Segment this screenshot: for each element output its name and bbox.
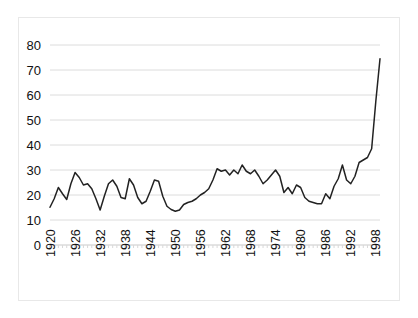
- x-axis-label-group-1920: 1920: [44, 229, 58, 257]
- x-axis-label-1998: 1998: [369, 229, 383, 257]
- x-axis-label-group-1944: 1944: [144, 229, 158, 257]
- x-axis-label-group-1998: 1998: [369, 229, 383, 257]
- x-axis-label-1992: 1992: [344, 229, 358, 257]
- x-axis-label-group-1992: 1992: [344, 229, 358, 257]
- x-axis-label-1968: 1968: [244, 229, 258, 257]
- data-series-value: [50, 59, 380, 212]
- x-axis-label-group-1980: 1980: [294, 229, 308, 257]
- x-axis-label-group-1926: 1926: [69, 229, 83, 257]
- x-axis-label-1950: 1950: [169, 229, 183, 257]
- y-axis-label-10: 10: [27, 213, 41, 228]
- y-axis-label-70: 70: [27, 63, 41, 78]
- x-axis-label-group-1938: 1938: [119, 229, 133, 257]
- x-axis-label-1974: 1974: [269, 229, 283, 257]
- x-axis-label-1920: 1920: [44, 229, 58, 257]
- x-axis-label-1938: 1938: [119, 229, 133, 257]
- chart-figure: 0102030405060708019201926193219381944195…: [0, 0, 418, 318]
- line-chart: 0102030405060708019201926193219381944195…: [0, 0, 418, 318]
- x-axis-label-group-1956: 1956: [194, 229, 208, 257]
- x-axis-label-1962: 1962: [219, 229, 233, 257]
- x-axis-label-group-1932: 1932: [94, 229, 108, 257]
- y-axis-label-30: 30: [27, 163, 41, 178]
- x-axis-label-group-1950: 1950: [169, 229, 183, 257]
- y-axis-label-0: 0: [34, 238, 41, 253]
- x-axis-label-1926: 1926: [69, 229, 83, 257]
- y-axis-label-80: 80: [27, 38, 41, 53]
- y-axis-label-60: 60: [27, 88, 41, 103]
- x-axis-label-group-1986: 1986: [319, 229, 333, 257]
- y-axis-label-20: 20: [27, 188, 41, 203]
- x-axis-label-group-1974: 1974: [269, 229, 283, 257]
- x-axis-label-1956: 1956: [194, 229, 208, 257]
- x-axis-label-group-1968: 1968: [244, 229, 258, 257]
- x-axis-label-1944: 1944: [144, 229, 158, 257]
- y-axis-label-50: 50: [27, 113, 41, 128]
- x-axis-label-1932: 1932: [94, 229, 108, 257]
- chart-canvas: 0102030405060708019201926193219381944195…: [0, 0, 418, 318]
- x-axis-label-1980: 1980: [294, 229, 308, 257]
- x-axis-label-1986: 1986: [319, 229, 333, 257]
- y-axis-label-40: 40: [27, 138, 41, 153]
- x-axis-label-group-1962: 1962: [219, 229, 233, 257]
